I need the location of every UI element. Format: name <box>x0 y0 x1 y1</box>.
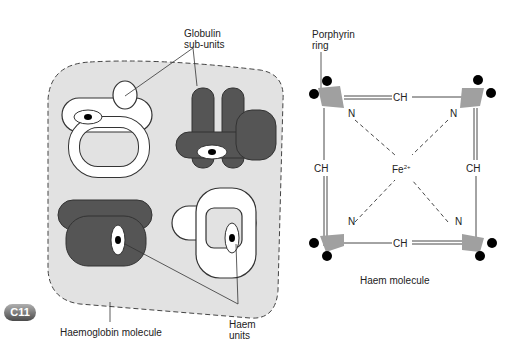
n-bottom-right: N <box>455 216 462 227</box>
haem-unit-4 <box>225 223 239 253</box>
fe-label: Fe2+ <box>392 162 411 175</box>
haem-unit-3 <box>111 225 125 255</box>
haem-unit-2 <box>197 145 227 159</box>
ch-bottom: CH <box>393 238 407 249</box>
fe-symbol: Fe <box>392 164 404 175</box>
porphyrin-line2: ring <box>312 40 355 51</box>
n-top-right: N <box>450 108 457 119</box>
haem-molecule-label: Haem molecule <box>360 275 429 286</box>
globulin-label-line2: sub-units <box>184 39 225 50</box>
haem-units-line2: units <box>229 330 256 341</box>
haemoglobin-molecule-label: Haemoglobin molecule <box>60 327 162 338</box>
ch-right: CH <box>466 163 480 174</box>
diagram-canvas <box>0 0 521 357</box>
globulin-subunit-dark-2 <box>58 200 152 266</box>
haem-units-line1: Haem <box>229 319 256 330</box>
section-badge: C11 <box>4 304 36 321</box>
porphyrin-line1: Porphyrin <box>312 29 355 40</box>
globulin-label-line1: Globulin <box>184 28 225 39</box>
n-top-left: N <box>348 108 355 119</box>
globulin-label: Globulin sub-units <box>184 28 225 50</box>
haem-unit-1 <box>74 110 102 124</box>
ch-left: CH <box>314 163 328 174</box>
porphyrin-label: Porphyrin ring <box>312 29 355 51</box>
fe-charge: 2+ <box>404 164 411 170</box>
ch-top: CH <box>393 92 407 103</box>
n-bottom-left: N <box>348 216 355 227</box>
haem-units-label: Haem units <box>229 319 256 341</box>
